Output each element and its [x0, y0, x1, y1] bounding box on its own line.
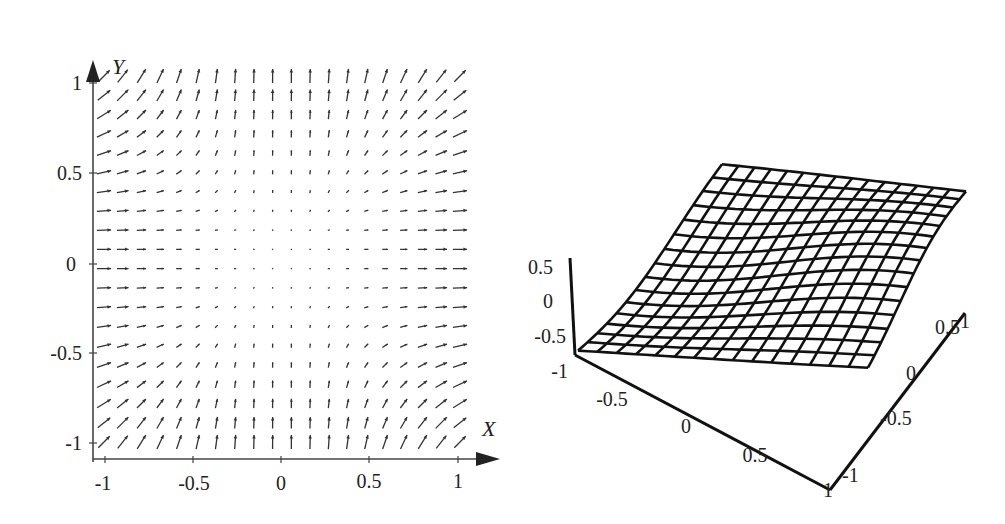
arrowhead-icon — [405, 229, 407, 231]
x-tick-label: 0 — [276, 472, 286, 494]
arrowhead-icon — [272, 381, 274, 383]
vector-arrow — [234, 288, 236, 289]
vector-arrow — [215, 190, 218, 193]
right-axis-tick-label: 0 — [906, 362, 916, 384]
vector-arrow — [215, 325, 218, 328]
vector-arrow — [291, 268, 292, 269]
vector-arrow — [234, 230, 236, 231]
z-tick-label: -0.5 — [534, 325, 566, 347]
arrowhead-icon — [309, 381, 311, 383]
vector-arrow — [346, 306, 349, 307]
arrowhead-icon — [161, 229, 163, 231]
x-axis-title: X — [481, 416, 497, 441]
vector-arrow — [310, 230, 311, 231]
arrowhead-icon — [443, 286, 447, 289]
front-axis-tick-label: 0 — [681, 415, 691, 437]
arrowhead-icon — [308, 69, 311, 73]
arrowhead-icon — [463, 362, 467, 365]
arrowhead-icon — [463, 248, 467, 251]
vector-arrow — [234, 325, 235, 328]
x-axis-arrowhead-icon — [476, 452, 500, 466]
arrowhead-icon — [197, 399, 200, 402]
right-axis-tick-label: 0.5 — [935, 316, 960, 338]
arrowhead-icon — [197, 110, 200, 113]
arrowhead-icon — [424, 170, 427, 173]
arrowhead-icon — [253, 381, 255, 383]
vector-arrow — [254, 210, 255, 212]
vector-arrow — [346, 190, 349, 193]
vector-arrow — [234, 190, 235, 193]
vector-arrow — [310, 306, 311, 308]
arrowhead-icon — [253, 399, 256, 402]
z-axis-line — [570, 258, 575, 355]
arrowhead-icon — [271, 69, 274, 73]
arrowhead-icon — [290, 110, 293, 113]
arrowhead-icon — [463, 150, 467, 153]
vector-arrow — [328, 288, 330, 289]
arrowhead-icon — [424, 344, 427, 347]
arrowhead-icon — [463, 286, 467, 289]
arrowhead-icon — [424, 229, 427, 232]
arrowhead-icon — [252, 435, 255, 439]
arrowhead-icon — [463, 305, 467, 308]
arrowhead-icon — [424, 267, 427, 270]
vector-arrow — [254, 190, 255, 193]
vector-arrow — [310, 190, 311, 193]
arrowhead-icon — [143, 344, 146, 347]
arrowhead-icon — [424, 286, 427, 289]
arrowhead-icon — [125, 248, 129, 251]
arrowhead-icon — [143, 286, 146, 289]
arrowhead-icon — [309, 130, 311, 132]
x-tick-label: 1 — [453, 470, 463, 492]
arrowhead-icon — [125, 267, 129, 270]
arrowhead-icon — [327, 69, 330, 73]
arrowhead-icon — [443, 248, 447, 251]
arrowhead-icon — [107, 209, 111, 212]
arrowhead-icon — [179, 69, 182, 73]
arrowhead-icon — [234, 417, 237, 421]
y-tick-label: 1 — [72, 72, 82, 94]
right-axis-tick-label: -1 — [842, 464, 859, 486]
arrowhead-icon — [366, 110, 369, 113]
vector-arrow — [291, 249, 292, 250]
arrowhead-icon — [253, 130, 255, 132]
arrowhead-icon — [125, 228, 129, 231]
arrowhead-icon — [107, 305, 111, 308]
arrowhead-icon — [271, 435, 274, 439]
arrowhead-icon — [125, 305, 129, 308]
y-tick-label: 0.5 — [57, 162, 82, 184]
arrowhead-icon — [443, 209, 447, 212]
arrowhead-icon — [162, 268, 164, 270]
vector-arrow — [215, 306, 218, 307]
arrowhead-icon — [234, 69, 237, 73]
vector-field-arrows — [97, 69, 467, 449]
right-axis-tick-label: 1 — [960, 310, 970, 332]
vector-arrow — [328, 306, 330, 308]
vector-arrow — [215, 230, 218, 231]
mesh-line — [607, 324, 888, 329]
mesh-line — [713, 177, 836, 360]
arrowhead-icon — [107, 267, 111, 270]
arrowhead-icon — [463, 228, 467, 231]
right-axis-tick-label: -0.5 — [880, 407, 912, 429]
y-tick-label: -0.5 — [50, 342, 82, 364]
arrowhead-icon — [143, 267, 146, 270]
vector-arrow — [328, 325, 329, 328]
surface-mesh — [578, 164, 966, 367]
arrowhead-icon — [107, 228, 111, 231]
mesh-line — [693, 205, 946, 216]
arrowhead-icon — [143, 248, 146, 251]
vector-arrow — [346, 230, 349, 231]
arrowhead-icon — [162, 248, 164, 250]
vector-arrow — [272, 268, 273, 269]
arrowhead-icon — [443, 267, 447, 270]
vector-arrow — [272, 249, 273, 250]
x-tick-label: 0.5 — [357, 470, 382, 492]
arrowhead-icon — [309, 110, 312, 113]
front-axis-line — [575, 355, 830, 490]
arrowhead-icon — [443, 305, 447, 308]
vector-arrow — [254, 325, 255, 328]
surface-plot: 0.5 0 -0.5 -1 -0.5 0 0.5 1 1 0.5 0 -0.5 … — [528, 164, 970, 501]
z-tick-label: 0 — [543, 290, 553, 312]
arrowhead-icon — [463, 267, 467, 270]
